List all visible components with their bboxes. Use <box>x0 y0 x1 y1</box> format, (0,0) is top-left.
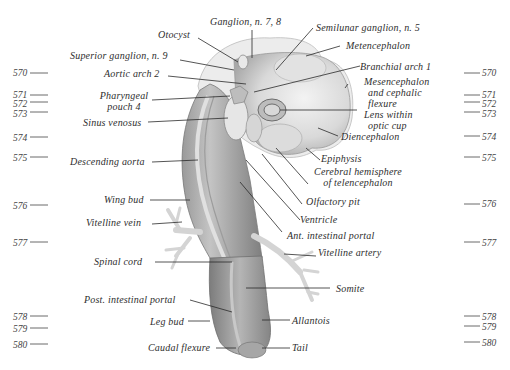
label-allantois: Allantois <box>292 315 330 326</box>
label-vitelline-vein: Vitelline vein <box>86 217 141 228</box>
label-cerebral-line2: of telencephalon <box>308 177 408 188</box>
label-mesencephalon-line1: Mesencephalon <box>364 76 429 87</box>
label-descending-aorta: Descending aorta <box>70 156 145 167</box>
scale-left-573: 573 <box>13 109 27 119</box>
label-semilunar-ganglion: Semilunar ganglion, n. 5 <box>316 22 420 33</box>
scale-left-578: 578 <box>13 312 27 322</box>
lens-shape <box>264 104 280 116</box>
label-pharyngeal-pouch: Pharyngeal pouch 4 <box>96 90 152 112</box>
scale-left-577: 577 <box>13 238 27 248</box>
label-spinal-cord: Spinal cord <box>94 256 142 267</box>
label-wing-bud: Wing bud <box>104 194 144 205</box>
label-pharyngeal-line2: pouch 4 <box>96 101 152 112</box>
scale-left-574: 574 <box>13 133 27 143</box>
scale-left-570: 570 <box>13 68 27 78</box>
scale-right-573: 573 <box>482 109 496 119</box>
scale-left-575: 575 <box>13 153 27 163</box>
label-olfactory-pit: Olfactory pit <box>306 196 360 207</box>
label-vitelline-artery: Vitelline artery <box>318 247 381 258</box>
otocyst-shape <box>238 55 248 69</box>
scale-right-579: 579 <box>482 322 496 332</box>
label-lens: Lens within optic cup <box>364 109 413 131</box>
label-ganglion-7-8: Ganglion, n. 7, 8 <box>210 16 281 27</box>
label-sinus-venosus: Sinus venosus <box>83 117 141 128</box>
telencephalon-shape <box>258 124 302 152</box>
label-pharyngeal-line1: Pharyngeal <box>96 90 152 101</box>
label-post-intestinal-portal: Post. intestinal portal <box>84 294 176 305</box>
scale-left-580: 580 <box>13 340 27 350</box>
scale-right-580: 580 <box>482 338 496 348</box>
scale-right-577: 577 <box>482 238 496 248</box>
label-lens-line2: optic cup <box>364 120 413 131</box>
label-lens-line1: Lens within <box>364 109 413 120</box>
label-epiphysis: Epiphysis <box>321 153 362 164</box>
scale-right-570: 570 <box>482 68 496 78</box>
label-cerebral-line1: Cerebral hemisphere <box>308 166 408 177</box>
label-diencephalon: Diencephalon <box>341 131 400 142</box>
label-ventricle: Ventricle <box>300 214 337 225</box>
scale-left-572: 572 <box>13 99 27 109</box>
label-metencephalon: Metencephalon <box>346 40 410 51</box>
label-somite: Somite <box>336 283 364 294</box>
label-leg-bud: Leg bud <box>150 316 184 327</box>
label-branchial-arch: Branchial arch 1 <box>360 61 431 72</box>
scale-right-576: 576 <box>482 199 496 209</box>
label-tail: Tail <box>292 342 308 353</box>
label-ant-intestinal-portal: Ant. intestinal portal <box>287 230 374 241</box>
scale-left-576: 576 <box>13 201 27 211</box>
scale-right-575: 575 <box>482 153 496 163</box>
label-caudal-flexure: Caudal flexure <box>148 342 210 353</box>
label-cerebral-hemisphere: Cerebral hemisphere of telencephalon <box>308 166 408 188</box>
label-mesencephalon-line2: and cephalic <box>364 87 429 98</box>
scale-left-579: 579 <box>13 324 27 334</box>
tail-tip <box>238 342 266 358</box>
label-mesencephalon: Mesencephalon and cephalic flexure <box>364 76 429 109</box>
label-otocyst: Otocyst <box>158 29 190 40</box>
label-mesencephalon-line3: flexure <box>364 98 429 109</box>
scale-right-574: 574 <box>482 132 496 142</box>
label-aortic-arch: Aortic arch 2 <box>104 68 160 79</box>
label-superior-ganglion: Superior ganglion, n. 9 <box>70 50 168 61</box>
metencephalon-shape <box>274 54 326 82</box>
scale-right-572: 572 <box>482 99 496 109</box>
scale-right-578: 578 <box>482 312 496 322</box>
embryo-figure: Ganglion, n. 7, 8 Otocyst Semilunar gang… <box>0 0 510 370</box>
